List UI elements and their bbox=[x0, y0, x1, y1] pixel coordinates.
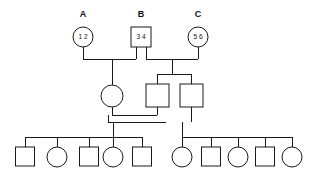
mating-connector-lower bbox=[108, 115, 166, 122]
individual-iii7-square[interactable] bbox=[202, 147, 221, 166]
individual-a-alleles: 1 2 bbox=[78, 33, 87, 40]
individual-iii1-square[interactable] bbox=[16, 147, 35, 166]
individual-iii2-circle[interactable] bbox=[47, 147, 67, 167]
generation-label-c: C bbox=[195, 9, 202, 19]
individual-iii5-square[interactable] bbox=[133, 147, 152, 166]
pedigree-canvas: 1 2 3 4 5 6 A B C bbox=[0, 0, 313, 178]
individual-iii4-circle[interactable] bbox=[103, 147, 123, 167]
individual-iii3-square[interactable] bbox=[80, 147, 99, 166]
individual-iii8-circle[interactable] bbox=[228, 147, 248, 167]
individual-iii6-circle[interactable] bbox=[172, 147, 192, 167]
mating-line-ii1-ii2-left bbox=[112, 107, 157, 115]
pedigree-diagram: 1 2 3 4 5 6 A B C bbox=[0, 0, 313, 178]
individual-ii2-square[interactable] bbox=[146, 84, 169, 107]
individual-ii3-square[interactable] bbox=[180, 84, 203, 107]
individual-c-alleles: 5 6 bbox=[193, 33, 202, 40]
individual-iii9-square[interactable] bbox=[256, 147, 275, 166]
generation-label-b: B bbox=[138, 9, 145, 19]
individual-iii10-circle[interactable] bbox=[282, 147, 302, 167]
generation-label-a: A bbox=[80, 9, 87, 19]
individual-ii1-circle[interactable] bbox=[101, 85, 123, 107]
individual-b-alleles: 3 4 bbox=[136, 33, 145, 40]
